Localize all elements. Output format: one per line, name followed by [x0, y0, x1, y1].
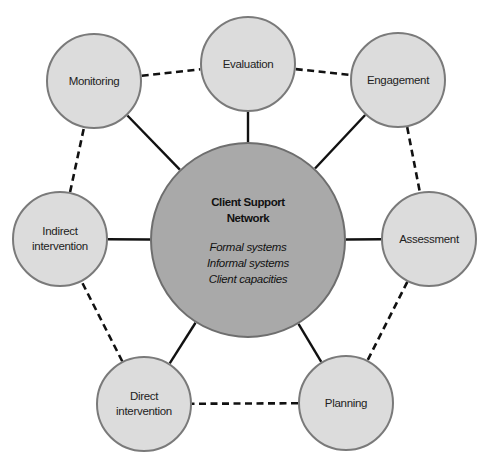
center-item-client-capacities: Client capacities: [209, 271, 288, 287]
node-engagement: Engagement: [350, 32, 446, 128]
solid-connector: [170, 323, 196, 364]
node-label: Indirect: [42, 224, 77, 239]
node-monitoring: Monitoring: [46, 33, 142, 129]
client-support-network-diagram: Client Support Network Formal systems In…: [0, 0, 484, 465]
node-label: Direct: [130, 389, 158, 404]
node-label: intervention: [116, 404, 172, 419]
dashed-connector: [192, 403, 298, 404]
center-node-client-support-network: Client Support Network Formal systems In…: [150, 142, 346, 338]
dashed-connector: [82, 282, 122, 361]
solid-connector: [127, 115, 179, 169]
node-assessment: Assessment: [381, 191, 477, 287]
node-label: Planning: [325, 396, 367, 411]
dashed-connector: [296, 69, 351, 75]
node-direct-intervention: Direct intervention: [96, 356, 192, 452]
center-item-informal-systems: Informal systems: [207, 255, 289, 271]
dashed-connector: [70, 128, 84, 192]
solid-connector: [298, 324, 321, 362]
center-title-line: Client Support: [211, 194, 285, 210]
dashed-connector: [142, 69, 201, 75]
center-title: Client Support Network: [211, 194, 285, 226]
node-label: Evaluation: [223, 57, 274, 72]
node-label: Assessment: [399, 232, 459, 247]
center-item-formal-systems: Formal systems: [210, 239, 287, 255]
node-planning: Planning: [298, 355, 394, 451]
node-label: Monitoring: [69, 74, 120, 89]
center-title-line: Network: [211, 210, 285, 226]
dashed-connector: [407, 127, 420, 192]
node-label: Engagement: [367, 73, 429, 88]
node-evaluation: Evaluation: [200, 16, 296, 112]
node-indirect-intervention: Indirect intervention: [12, 191, 108, 287]
node-label: intervention: [32, 239, 88, 254]
solid-connector: [315, 115, 365, 168]
dashed-connector: [368, 282, 408, 360]
